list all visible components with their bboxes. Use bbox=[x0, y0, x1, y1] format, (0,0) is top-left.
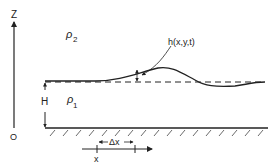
origin-label: O bbox=[10, 132, 17, 142]
bottom-boundary bbox=[45, 128, 268, 136]
z-axis-label: Z bbox=[11, 9, 17, 20]
depth-label: H bbox=[41, 96, 48, 107]
delta-x-label: Δx bbox=[109, 137, 120, 147]
z-axis: Z O bbox=[10, 9, 17, 142]
x-position-label: x bbox=[94, 154, 99, 164]
svg-text:2: 2 bbox=[73, 35, 78, 44]
displacement-label: h(x,y,t) bbox=[168, 37, 195, 47]
interface-wave bbox=[45, 68, 265, 87]
depth-indicator: H bbox=[41, 83, 48, 127]
displacement-indicator: h(x,y,t) bbox=[137, 37, 195, 81]
svg-text:ρ: ρ bbox=[65, 28, 72, 40]
upper-density-label: ρ 2 bbox=[65, 28, 78, 44]
lower-density-label: ρ 1 bbox=[66, 93, 78, 110]
svg-text:1: 1 bbox=[73, 101, 78, 110]
bottom-hatching bbox=[50, 130, 263, 136]
x-axis: Δx x bbox=[82, 137, 152, 164]
fluid-layer-diagram: Z O ρ 2 h(x,y,t) H ρ 1 bbox=[0, 0, 274, 167]
